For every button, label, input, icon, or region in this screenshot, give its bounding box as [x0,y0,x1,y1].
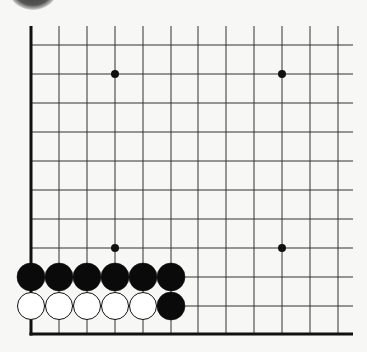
stones [17,263,185,320]
white-stone [130,293,157,320]
black-stone [17,263,45,291]
black-stone [157,263,185,291]
black-stone [129,263,157,291]
white-stone [18,293,45,320]
white-stone [46,293,73,320]
black-stone [73,263,101,291]
star-point [278,70,286,78]
go-board [0,0,367,352]
white-stone [74,293,101,320]
black-stone [157,292,185,320]
board-edges [30,26,354,336]
star-point [111,244,119,252]
star-point [278,244,286,252]
black-stone [101,263,129,291]
star-point [111,70,119,78]
white-stone [102,293,129,320]
black-stone [45,263,73,291]
